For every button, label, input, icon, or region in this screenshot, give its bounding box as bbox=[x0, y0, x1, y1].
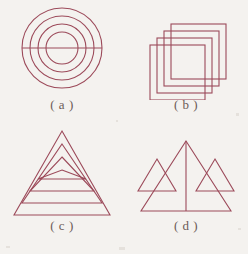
figure-panel-a: ( a ) bbox=[0, 0, 124, 127]
panel-label-d: ( d ) bbox=[124, 218, 248, 234]
paper-speck bbox=[6, 246, 10, 248]
overlapping-offset-squares-drawing bbox=[124, 0, 248, 100]
panel-label-c: ( c ) bbox=[0, 218, 124, 234]
square-front-bottom-left bbox=[150, 45, 205, 100]
square-back-top-right bbox=[171, 24, 226, 79]
panel-label-b: ( b ) bbox=[124, 97, 248, 113]
paper-speck bbox=[236, 113, 239, 116]
paper-speck bbox=[116, 120, 118, 122]
triangle-second bbox=[22, 144, 102, 203]
figure-panel-d: ( d ) bbox=[124, 127, 248, 254]
concentric-circles-with-diameter-drawing bbox=[0, 0, 124, 100]
large-triangle-with-two-small-triangles-drawing bbox=[124, 127, 248, 227]
stacked-nested-triangles-drawing bbox=[0, 127, 124, 227]
triangle-third bbox=[30, 157, 94, 191]
panel-label-a: ( a ) bbox=[0, 97, 124, 113]
figure-panel-c: ( c ) bbox=[0, 127, 124, 254]
figure-panel-b: ( b ) bbox=[124, 0, 248, 127]
paper-speck bbox=[119, 247, 125, 250]
paper-speck bbox=[238, 228, 241, 230]
square-third bbox=[164, 31, 219, 86]
figure-sheet: ( a ) ( b ) ( c ) ( d ) bbox=[0, 0, 248, 254]
square-second bbox=[157, 38, 212, 93]
